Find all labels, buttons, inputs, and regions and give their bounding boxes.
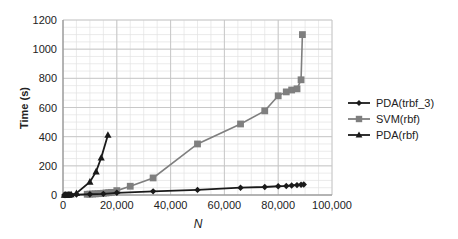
legend-item: PDA(trbf_3) [348, 97, 434, 109]
y-axis-label: Time (s) [18, 87, 30, 129]
legend-label: PDA(rbf) [376, 129, 419, 141]
y-tick-label: 200 [39, 160, 57, 172]
y-tick-label: 1000 [33, 43, 57, 55]
x-axis-ticks: 020,00040,00060,00080,000100,000 [60, 199, 352, 211]
y-tick-label: 600 [39, 102, 57, 114]
y-axis-ticks: 020040060080010001200 [33, 14, 57, 201]
x-axis-label: N [194, 217, 203, 231]
x-tick-label: 40,000 [154, 199, 188, 211]
y-tick-label: 0 [51, 189, 57, 201]
legend-label: PDA(trbf_3) [376, 97, 434, 109]
x-tick-label: 60,000 [208, 199, 242, 211]
x-tick-label: 20,000 [100, 199, 134, 211]
chart-figure: 020040060080010001200 020,00040,00060,00… [0, 0, 458, 239]
legend-item: PDA(rbf) [348, 129, 419, 141]
legend-item: SVM(rbf) [348, 113, 420, 125]
y-tick-label: 800 [39, 72, 57, 84]
x-tick-label: 100,000 [312, 199, 352, 211]
plot-grid [63, 20, 332, 195]
y-tick-label: 400 [39, 131, 57, 143]
y-tick-label: 1200 [33, 14, 57, 26]
legend: PDA(trbf_3)SVM(rbf)PDA(rbf) [348, 97, 434, 141]
legend-label: SVM(rbf) [376, 113, 420, 125]
x-tick-label: 0 [60, 199, 66, 211]
x-tick-label: 80,000 [261, 199, 295, 211]
